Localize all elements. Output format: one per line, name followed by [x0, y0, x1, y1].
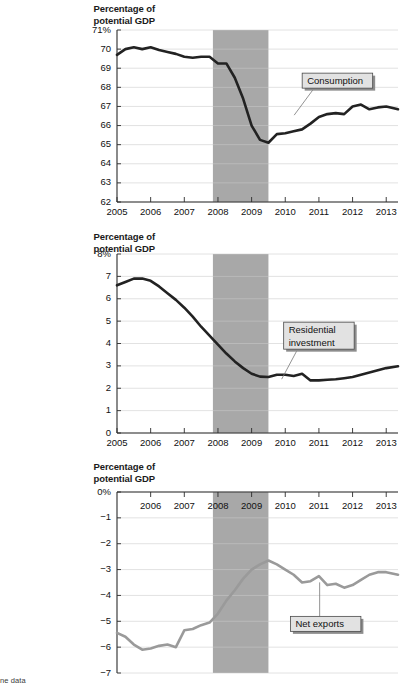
x-tick-label: 2007: [174, 437, 195, 448]
x-tick-label: 2010: [275, 500, 296, 511]
callout-label: investment: [289, 337, 335, 348]
x-tick-label: 2007: [174, 500, 195, 511]
x-tick-label: 2013: [376, 206, 397, 217]
x-tick-label: 2013: [376, 437, 397, 448]
chart-svg-net-exports: 0%−1−2−3−4−5−6−7200620072008200920102011…: [0, 458, 402, 694]
x-tick-label: 2009: [241, 437, 262, 448]
y-tick-label: 65: [100, 138, 111, 149]
x-tick-label: 2011: [309, 500, 329, 511]
y-tick-label: −2: [100, 537, 111, 548]
y-tick-label: 67: [100, 100, 111, 111]
x-tick-label: 2008: [207, 437, 228, 448]
y-tick-label: 6: [106, 292, 111, 303]
callout-label: Residential: [289, 324, 336, 335]
x-tick-label: 2012: [342, 500, 363, 511]
footnote-text: ne data: [0, 676, 26, 685]
y-tick-label: −7: [100, 667, 111, 678]
y-tick-label: 3: [106, 359, 111, 370]
x-tick-label: 2010: [275, 437, 296, 448]
y-tick-label: 63: [100, 176, 111, 187]
x-tick-label: 2010: [275, 206, 296, 217]
y-tick-label: 1: [106, 404, 111, 415]
y-tick-label: 64: [100, 157, 111, 168]
y-tick-label: 4: [106, 337, 111, 348]
y-tick-label: 2: [106, 382, 111, 393]
chart-panel-net-exports: 0%−1−2−3−4−5−6−7200620072008200920102011…: [0, 458, 402, 694]
callout-leader-line: [294, 88, 314, 115]
x-tick-label: 2006: [140, 500, 161, 511]
x-tick-label: 2007: [174, 206, 195, 217]
x-tick-label: 2013: [376, 500, 397, 511]
x-tick-label: 2011: [309, 437, 329, 448]
chart-panel-consumption: 71%7069686766656463622005200620072008200…: [0, 0, 402, 228]
y-tick-label: −1: [100, 511, 111, 522]
x-tick-label: 2012: [342, 206, 363, 217]
x-tick-label: 2008: [207, 500, 228, 511]
x-tick-label: 2006: [140, 206, 161, 217]
y-tick-label: −4: [100, 589, 111, 600]
recession-band: [213, 30, 269, 202]
y-tick-label: 69: [100, 62, 111, 73]
chart-svg-residential-investment: 8%76543210200520062007200820092010201120…: [0, 228, 402, 458]
y-tick-label: 0%: [97, 486, 111, 497]
x-tick-label: 2005: [106, 206, 127, 217]
y-tick-label: 66: [100, 119, 111, 130]
y-tick-label: 71%: [92, 24, 112, 35]
x-tick-label: 2008: [207, 206, 228, 217]
x-tick-label: 2012: [342, 437, 363, 448]
x-tick-label: 2005: [106, 437, 127, 448]
y-tick-label: 62: [100, 196, 111, 207]
y-tick-label: 7: [106, 270, 111, 281]
y-tick-label: 5: [106, 315, 111, 326]
y-tick-label: −5: [100, 615, 111, 626]
callout-label: Consumption: [307, 75, 363, 86]
chart-svg-consumption: 71%7069686766656463622005200620072008200…: [0, 0, 402, 228]
x-tick-label: 2011: [309, 206, 329, 217]
x-tick-label: 2006: [140, 437, 161, 448]
x-tick-label: 2009: [241, 500, 262, 511]
y-tick-label: 70: [100, 43, 111, 54]
chart-panel-residential-investment: 8%76543210200520062007200820092010201120…: [0, 228, 402, 458]
y-tick-label: −3: [100, 563, 111, 574]
y-tick-label: 68: [100, 81, 111, 92]
y-tick-label: 8%: [97, 248, 111, 259]
x-tick-label: 2009: [241, 206, 262, 217]
y-tick-label: 0: [106, 427, 111, 438]
y-tick-label: −6: [100, 641, 111, 652]
callout-label: Net exports: [295, 618, 344, 629]
